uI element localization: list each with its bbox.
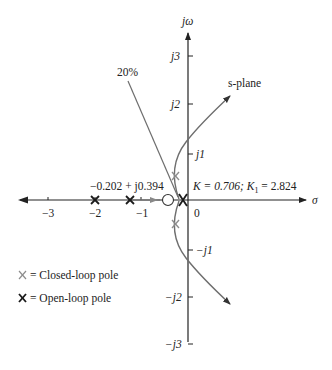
tick-label-j2: j2: [169, 98, 180, 111]
open-loop-zero: [163, 195, 174, 206]
tick-label-neg1: −1: [136, 207, 148, 219]
closed-loop-point-label: −0.202 + j0.394: [90, 180, 164, 193]
tick-label-neg-j1: −j1: [196, 244, 213, 257]
tick-label-j3: j3: [169, 50, 180, 63]
real-axis-label: σ: [312, 194, 319, 206]
root-locus-diagram: jω σ −3 −2 −1 0 j3 j2 j1 −j1 −j2 −j3 20%…: [0, 0, 332, 370]
legend-closed-loop: = Closed-loop pole: [19, 269, 118, 282]
tick-label-neg2: −2: [89, 207, 101, 219]
imag-axis-label: jω: [180, 15, 193, 28]
closed-loop-pole: [172, 220, 179, 228]
legend-open-loop: = Open-loop pole: [19, 292, 111, 305]
open-loop-pole-icon: [19, 294, 26, 302]
closed-loop-pole: [172, 172, 179, 180]
tick-label-neg-j2: −j2: [165, 291, 182, 304]
gain-label: K = 0.706; K1 = 2.824: [192, 180, 297, 195]
locus-direction-arrow: [150, 197, 158, 203]
legend-open-loop-text: = Open-loop pole: [30, 292, 111, 305]
legend-closed-loop-text: = Closed-loop pole: [30, 269, 118, 282]
damping-label: 20%: [117, 66, 139, 78]
tick-label-neg3: −3: [42, 207, 54, 219]
s-plane-label: s-plane: [228, 77, 261, 90]
tick-label-neg-j3: −j3: [165, 338, 182, 351]
closed-loop-pole-icon: [19, 271, 26, 279]
tick-label-j1: j1: [194, 148, 205, 161]
tick-label-zero: 0: [194, 207, 200, 219]
